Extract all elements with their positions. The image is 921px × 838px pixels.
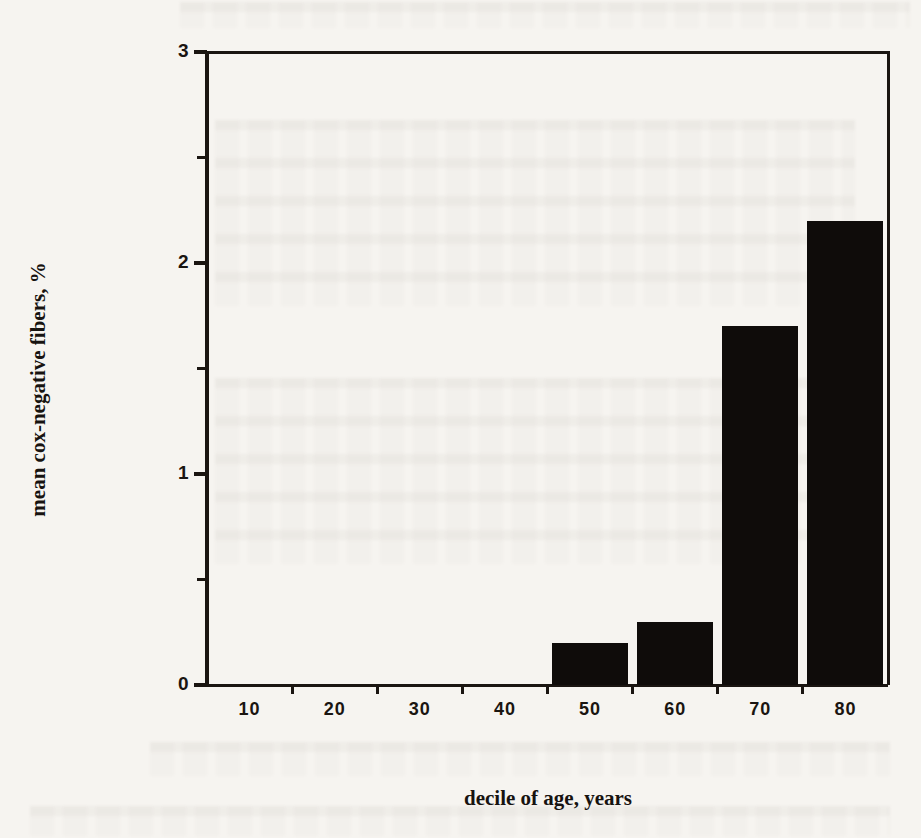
x-minor-tick <box>716 687 719 694</box>
x-tick-label: 50 <box>560 699 620 720</box>
x-minor-tick <box>461 687 464 694</box>
y-tick-label: 2 <box>149 251 189 273</box>
bar-decile-50 <box>552 643 628 685</box>
y-axis-title: mean cox-negative fibers, % <box>26 230 51 550</box>
x-tick-label: 80 <box>815 699 875 720</box>
x-minor-tick <box>801 687 804 694</box>
bar-decile-60 <box>637 622 713 685</box>
x-minor-tick <box>291 687 294 694</box>
x-tick-label: 20 <box>305 699 365 720</box>
x-tick-label: 60 <box>645 699 705 720</box>
x-minor-tick <box>631 687 634 694</box>
y-major-tick <box>194 683 207 687</box>
bar-decile-80 <box>807 221 883 685</box>
x-tick-label: 30 <box>390 699 450 720</box>
y-minor-tick <box>197 578 207 581</box>
y-major-tick <box>194 261 207 265</box>
scanned-page: mean cox-negative fibers, % decile of ag… <box>0 0 921 838</box>
y-major-tick <box>194 472 207 476</box>
y-major-tick <box>194 50 207 54</box>
y-minor-tick <box>197 156 207 159</box>
bar-chart: mean cox-negative fibers, % decile of ag… <box>0 0 921 838</box>
x-tick-label: 40 <box>475 699 535 720</box>
plot-frame-right <box>887 52 890 685</box>
y-minor-tick <box>197 367 207 370</box>
x-tick-label: 10 <box>220 699 280 720</box>
bar-decile-70 <box>722 326 798 685</box>
x-minor-tick <box>376 687 379 694</box>
y-tick-label: 1 <box>149 462 189 484</box>
x-minor-tick <box>546 687 549 694</box>
x-axis-title: decile of age, years <box>388 786 708 811</box>
y-tick-label: 0 <box>149 673 189 695</box>
plot-frame-top <box>207 51 890 54</box>
y-tick-label: 3 <box>149 40 189 62</box>
x-tick-label: 70 <box>730 699 790 720</box>
